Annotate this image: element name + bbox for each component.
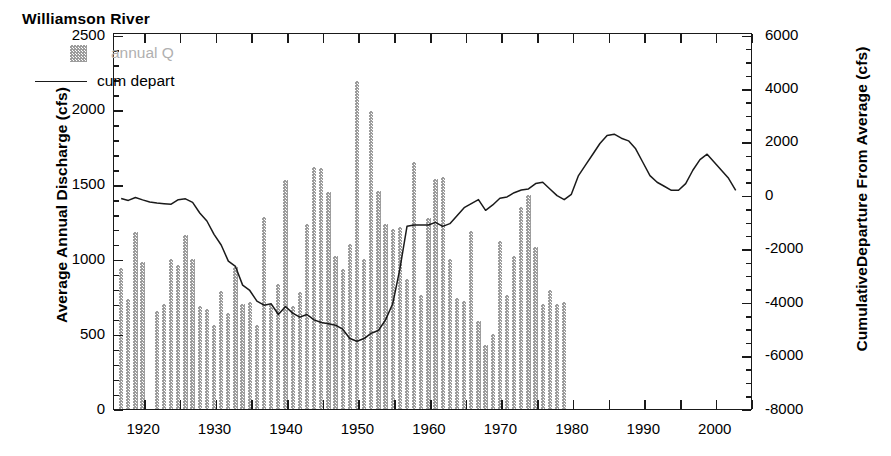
tick-mark <box>430 400 432 409</box>
tick-mark <box>323 34 325 43</box>
tick-mark <box>746 329 751 331</box>
tick-mark <box>114 200 119 202</box>
cum-depart-line <box>114 34 750 408</box>
tick-label: 1970 <box>465 420 535 437</box>
tick-label: 4000 <box>765 79 835 96</box>
tick-mark <box>114 305 119 307</box>
tick-mark <box>716 400 718 409</box>
tick-mark <box>742 36 751 38</box>
tick-mark <box>742 249 751 251</box>
tick-mark <box>114 185 123 187</box>
legend-row-bar: annual Q <box>22 42 175 64</box>
chart-figure: Average Annual Discharge (cfs) Cumulativ… <box>0 0 891 456</box>
tick-label: 1000 <box>43 250 105 267</box>
tick-mark <box>746 209 751 211</box>
tick-mark <box>114 155 119 157</box>
tick-label: 1930 <box>180 420 250 437</box>
tick-label: 1960 <box>394 420 464 437</box>
plot-area <box>113 33 752 410</box>
tick-mark <box>323 400 325 409</box>
tick-mark <box>746 102 751 104</box>
tick-mark <box>430 34 432 43</box>
tick-mark <box>114 350 119 352</box>
tick-mark <box>466 400 468 409</box>
legend-title: Williamson River <box>22 10 175 28</box>
tick-mark <box>114 110 123 112</box>
tick-mark <box>114 365 119 367</box>
tick-mark <box>358 34 360 43</box>
tick-mark <box>114 395 119 397</box>
tick-mark <box>746 129 751 131</box>
tick-label: 1990 <box>608 420 678 437</box>
tick-mark <box>644 34 646 43</box>
tick-mark <box>746 396 751 398</box>
tick-mark <box>394 34 396 43</box>
tick-mark <box>742 89 751 91</box>
tick-mark <box>746 76 751 78</box>
tick-mark <box>746 236 751 238</box>
tick-mark <box>216 400 218 409</box>
tick-mark <box>742 410 751 412</box>
tick-mark <box>114 140 119 142</box>
tick-mark <box>746 116 751 118</box>
tick-mark <box>742 303 751 305</box>
legend-bar-swatch <box>70 45 87 62</box>
tick-mark <box>746 62 751 64</box>
tick-mark <box>114 215 119 217</box>
tick-mark <box>746 316 751 318</box>
tick-mark <box>501 34 503 43</box>
tick-label: -8000 <box>765 400 835 417</box>
tick-label: 1940 <box>251 420 321 437</box>
tick-mark <box>114 230 119 232</box>
tick-label: 1500 <box>43 175 105 192</box>
tick-label: 500 <box>43 325 105 342</box>
tick-mark <box>746 276 751 278</box>
tick-mark <box>746 169 751 171</box>
tick-mark <box>573 34 575 43</box>
legend-bar-label: annual Q <box>111 44 174 62</box>
tick-label: 2000 <box>765 132 835 149</box>
tick-mark <box>501 400 503 409</box>
tick-mark <box>573 400 575 409</box>
tick-mark <box>466 34 468 43</box>
tick-mark <box>114 260 123 262</box>
tick-mark <box>114 125 119 127</box>
tick-mark <box>680 400 682 409</box>
tick-mark <box>251 400 253 409</box>
tick-label: 1980 <box>537 420 607 437</box>
tick-mark <box>358 400 360 409</box>
tick-mark <box>114 335 123 337</box>
tick-label: -2000 <box>765 239 835 256</box>
tick-mark <box>680 34 682 43</box>
tick-mark <box>180 400 182 409</box>
tick-mark <box>537 34 539 43</box>
tick-mark <box>746 156 751 158</box>
tick-mark <box>746 289 751 291</box>
legend-line-label: cum depart <box>97 72 175 90</box>
tick-mark <box>180 34 182 43</box>
tick-label: 1950 <box>322 420 392 437</box>
tick-mark <box>114 245 119 247</box>
tick-mark <box>114 320 119 322</box>
chart-legend: Williamson River annual Q cum depart <box>22 10 175 98</box>
tick-mark <box>746 343 751 345</box>
tick-label: 2000 <box>680 420 750 437</box>
tick-mark <box>144 400 146 409</box>
tick-mark <box>746 223 751 225</box>
tick-mark <box>114 170 119 172</box>
tick-label: 1920 <box>108 420 178 437</box>
tick-mark <box>746 369 751 371</box>
tick-label: -6000 <box>765 346 835 363</box>
tick-mark <box>114 275 119 277</box>
tick-mark <box>746 383 751 385</box>
legend-row-line: cum depart <box>22 70 175 92</box>
tick-mark <box>746 49 751 51</box>
tick-mark <box>742 196 751 198</box>
tick-mark <box>644 400 646 409</box>
tick-mark <box>742 142 751 144</box>
tick-mark <box>716 34 718 43</box>
tick-label: 0 <box>765 186 835 203</box>
tick-mark <box>251 34 253 43</box>
tick-label: 0 <box>43 400 105 417</box>
tick-mark <box>746 182 751 184</box>
